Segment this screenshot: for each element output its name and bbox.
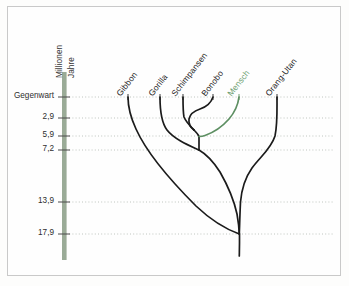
gridlines [66, 97, 333, 234]
branch-gorilla [160, 97, 199, 150]
tree-canvas [0, 0, 349, 286]
branch-node-2-9-stem [194, 130, 199, 137]
time-axis-bar [62, 72, 67, 260]
phylogenetic-tree-figure: Millionen Jahre Gegenwart 2,9 5,9 7,2 13… [0, 0, 349, 286]
tree-branches [128, 97, 277, 256]
tick-label-gegenwart: Gegenwart [0, 91, 54, 100]
tick-label-5-9: 5,9 [0, 130, 54, 139]
tick-label-7-2: 7,2 [0, 144, 54, 153]
tick-label-17-9: 17,9 [0, 228, 54, 237]
branch-mensch [199, 97, 239, 137]
tick-label-2-9: 2,9 [0, 112, 54, 121]
branch-bonobo [189, 97, 213, 130]
branch-node-7-2-stem [199, 150, 239, 234]
tick-label-13-9: 13,9 [0, 196, 54, 205]
